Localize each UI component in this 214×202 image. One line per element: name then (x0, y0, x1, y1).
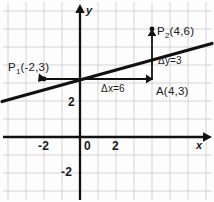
y-axis-label: y (86, 5, 92, 16)
point-label-p2-coords: (4,6) (170, 25, 195, 37)
annotation-delta-x: Δx=6 (101, 84, 125, 94)
delta-y-arrow (148, 29, 157, 80)
point-label-p2: P2(4,6) (157, 26, 194, 40)
x-tick-label-neg2: -2 (38, 140, 49, 152)
point-label-p1-base: P (8, 61, 16, 73)
point-label-a: A(4,3) (156, 86, 189, 98)
y-axis (75, 4, 84, 200)
point-label-p1: P1(-2,3) (8, 62, 49, 76)
y-tick-label-neg2: -2 (61, 166, 72, 178)
annotation-delta-y: Δy=3 (158, 56, 182, 66)
point-label-p1-coords: (-2,3) (21, 61, 50, 73)
x-tick-label-2: 2 (112, 140, 119, 152)
coordinate-plane-figure: P1(-2,3) P2(4,6) A(4,3) Δx=6 Δy=3 x y -2… (0, 0, 214, 202)
point-label-p2-base: P (157, 25, 165, 37)
x-axis-label: x (196, 140, 202, 151)
x-axis (3, 132, 212, 142)
x-tick-label-0: 0 (84, 140, 91, 152)
y-tick-label-2: 2 (68, 96, 75, 108)
